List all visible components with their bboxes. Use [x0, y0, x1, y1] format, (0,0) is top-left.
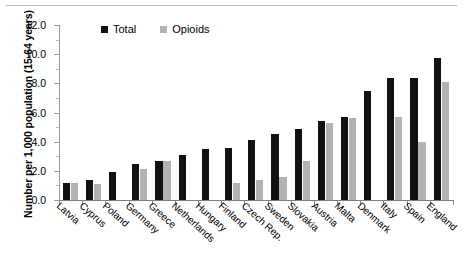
bar-total: [86, 180, 93, 200]
gray-square-marker-icon: [160, 26, 167, 33]
bar-opioids: [326, 123, 333, 200]
y-axis-tick-label: 12.0: [26, 19, 46, 31]
x-axis-label: Latvia: [54, 200, 81, 226]
bar-total: [248, 140, 255, 200]
black-square-marker-icon: [101, 26, 108, 33]
y-axis-tick-label: 6.0: [31, 107, 46, 119]
bar-total: [364, 91, 371, 200]
y-axis-tick-label: 10.0: [26, 48, 46, 60]
y-axis-tick-label: 8.0: [31, 77, 46, 89]
legend-item-opioids: Opioids: [160, 23, 209, 35]
bar-group: [82, 25, 105, 200]
bar-opioids: [442, 82, 449, 200]
bar-total: [63, 183, 70, 201]
bar-group: [383, 25, 406, 200]
bar-total: [295, 129, 302, 200]
bar-group: [337, 25, 360, 200]
bar-opioids: [94, 184, 101, 200]
bar-total: [109, 172, 116, 200]
chart-legend: Total Opioids: [101, 23, 210, 35]
bar-opioids: [71, 183, 78, 201]
bar-group: [360, 25, 383, 200]
bar-total: [155, 161, 162, 200]
legend-label-opioids: Opioids: [172, 23, 209, 35]
bar-opioids: [256, 180, 263, 200]
x-axis-label: Spain: [402, 200, 428, 225]
y-axis-tick-label: 4.0: [31, 136, 46, 148]
bars-layer: [59, 25, 453, 200]
bar-group: [407, 25, 430, 200]
bar-group: [198, 25, 221, 200]
bar-opioids: [418, 142, 425, 200]
bar-total: [202, 149, 209, 200]
x-axis-labels: LatviaCyprusPolandGermanyGreeceNetherlan…: [59, 200, 459, 272]
bar-total: [318, 121, 325, 200]
bar-total: [225, 148, 232, 201]
bar-opioids: [140, 169, 147, 200]
bar-group: [221, 25, 244, 200]
bar-group: [152, 25, 175, 200]
bar-group: [244, 25, 267, 200]
bar-opioids: [303, 161, 310, 200]
bar-group: [268, 25, 291, 200]
bar-total: [410, 78, 417, 201]
bar-total: [271, 134, 278, 200]
bar-group: [175, 25, 198, 200]
bar-total: [387, 78, 394, 201]
bar-opioids: [395, 117, 402, 200]
bar-group: [105, 25, 128, 200]
legend-label-total: Total: [113, 23, 136, 35]
legend-item-total: Total: [101, 23, 136, 35]
bar-opioids: [349, 118, 356, 200]
bar-opioids: [233, 183, 240, 201]
top-divider-rule: [6, 5, 457, 6]
x-axis-label: England: [425, 200, 460, 233]
y-axis-tick-label: 0.0: [31, 194, 46, 206]
bar-opioids: [279, 177, 286, 200]
bar-group: [291, 25, 314, 200]
plot-area: 0.02.04.06.08.010.012.0: [59, 25, 453, 200]
bar-group: [129, 25, 152, 200]
bar-opioids: [163, 161, 170, 200]
bar-chart-figure: Number per 1,000 population (15-64 years…: [0, 0, 463, 272]
bar-group: [59, 25, 82, 200]
bar-total: [132, 164, 139, 200]
bar-total: [179, 155, 186, 200]
bar-group: [430, 25, 453, 200]
bar-group: [314, 25, 337, 200]
bar-total: [341, 117, 348, 200]
bar-total: [434, 58, 441, 200]
y-axis-tick-label: 2.0: [31, 165, 46, 177]
